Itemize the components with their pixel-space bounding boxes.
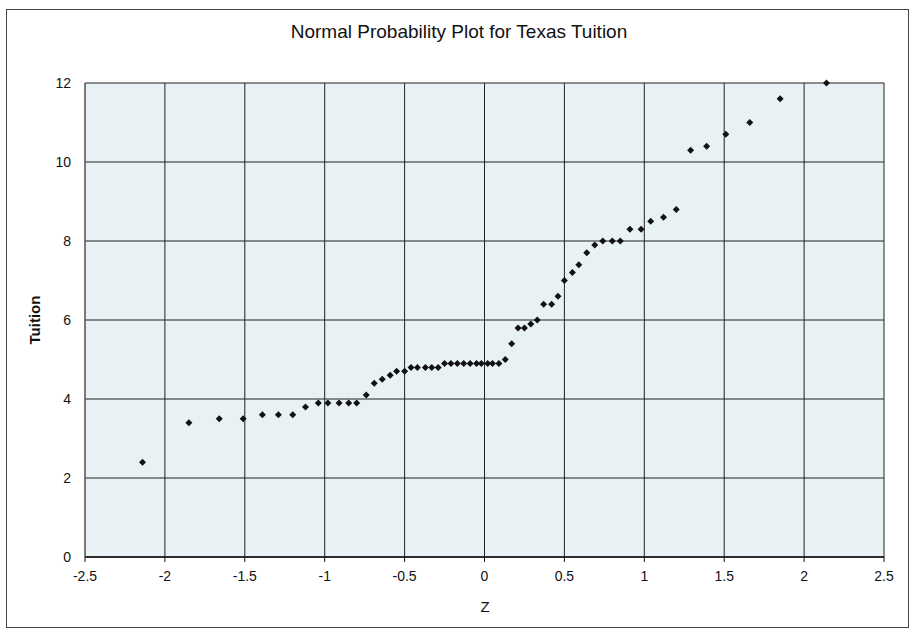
scatter-plot: -2.5-2-1.5-1-0.500.511.522.5 024681012 Z…	[0, 0, 918, 637]
x-tick-label: 1	[640, 568, 648, 584]
y-tick-label: 8	[63, 233, 71, 249]
x-tick-label: -2.5	[73, 568, 97, 584]
x-tick-label: 1.5	[714, 568, 734, 584]
y-tick-label: 6	[63, 312, 71, 328]
y-tick-label: 12	[55, 75, 71, 91]
y-tick-label: 0	[63, 549, 71, 565]
x-tick-label: -2	[159, 568, 172, 584]
y-tick-label: 2	[63, 470, 71, 486]
x-tick-label: 2	[800, 568, 808, 584]
x-tick-label: -0.5	[393, 568, 417, 584]
x-tick-label: 2.5	[874, 568, 894, 584]
y-tick-label: 10	[55, 154, 71, 170]
y-tick-label: 4	[63, 391, 71, 407]
x-tick-label: 0.5	[555, 568, 575, 584]
x-axis-ticks: -2.5-2-1.5-1-0.500.511.522.5	[73, 557, 894, 584]
x-tick-label: 0	[481, 568, 489, 584]
x-tick-label: -1.5	[233, 568, 257, 584]
x-tick-label: -1	[318, 568, 331, 584]
y-axis-ticks: 024681012	[55, 75, 71, 565]
y-axis-label: Tuition	[26, 296, 43, 345]
x-axis-label: Z	[480, 598, 489, 615]
